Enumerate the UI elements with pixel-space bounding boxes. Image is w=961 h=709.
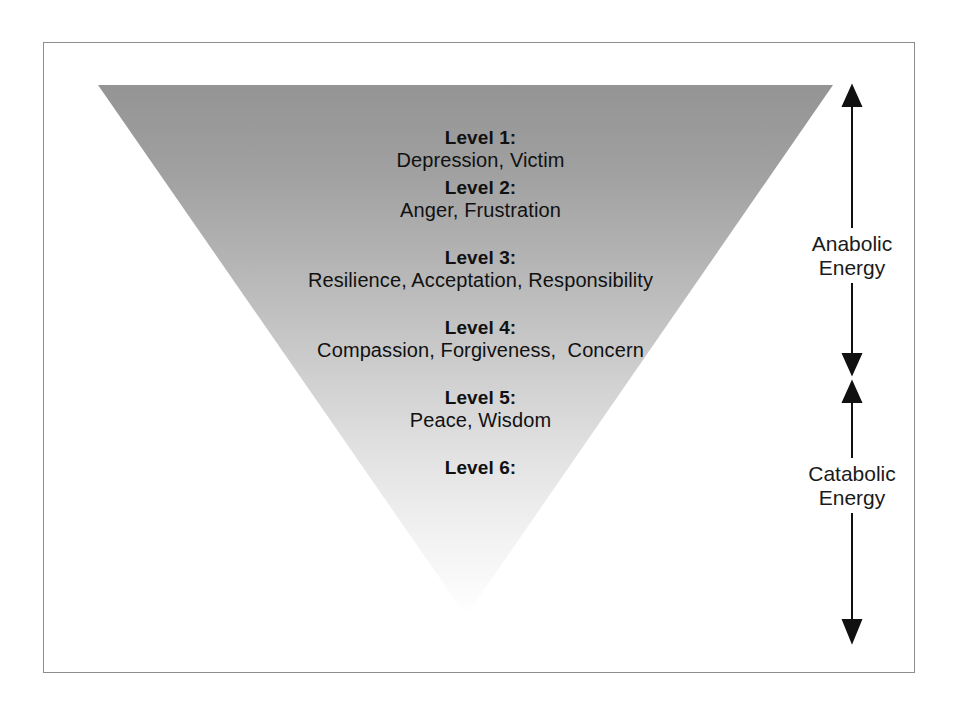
catabolic-energy-line1: Catabolic	[762, 462, 942, 486]
anabolic-energy-label: Anabolic Energy	[762, 232, 942, 280]
energy-arrows	[0, 0, 961, 709]
anabolic-down-arrowhead	[843, 354, 861, 374]
anabolic-energy-line1: Anabolic	[762, 232, 942, 256]
anabolic-energy-line2: Energy	[762, 256, 942, 280]
catabolic-energy-line2: Energy	[762, 486, 942, 510]
energy-levels-diagram: Level 1: Depression, Victim Level 2: Ang…	[0, 0, 961, 709]
catabolic-down-arrowhead	[843, 620, 861, 642]
catabolic-energy-label: Catabolic Energy	[762, 462, 942, 510]
